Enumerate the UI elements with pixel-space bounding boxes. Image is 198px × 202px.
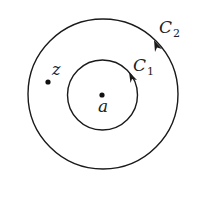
contour-diagram: a z C 1 C 2 [0, 0, 198, 202]
point-z [45, 79, 50, 84]
label-z: z [51, 60, 61, 79]
label-c1: C [133, 55, 146, 75]
label-c1-subscript: 1 [147, 65, 154, 78]
label-c2-subscript: 2 [173, 27, 180, 40]
label-c2: C [159, 17, 172, 37]
label-a: a [98, 96, 108, 116]
